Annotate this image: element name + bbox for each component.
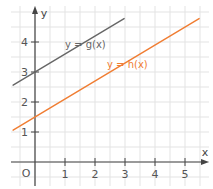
y-axis-arrow-icon <box>32 6 38 14</box>
x-axis-label: x <box>202 146 209 159</box>
label-g: y = g(x) <box>65 39 106 50</box>
coordinate-plane: 123451234Oxyy = g(x)y = h(x) <box>0 0 213 189</box>
line-g <box>13 19 124 86</box>
origin-label: O <box>22 167 31 180</box>
y-tick-label: 3 <box>21 66 28 79</box>
label-h: y = h(x) <box>107 59 148 70</box>
y-tick-label: 1 <box>21 126 28 139</box>
x-tick-label: 5 <box>182 168 189 181</box>
function-lines <box>13 19 199 131</box>
y-axis-label: y <box>41 7 48 20</box>
labels: 123451234Oxyy = g(x)y = h(x) <box>21 7 209 181</box>
line-h <box>13 19 199 131</box>
y-tick-label: 4 <box>21 36 28 49</box>
x-tick-label: 3 <box>122 168 129 181</box>
x-tick-label: 2 <box>92 168 99 181</box>
y-tick-label: 2 <box>21 96 28 109</box>
x-axis-arrow-icon <box>201 159 209 165</box>
x-tick-label: 4 <box>152 168 159 181</box>
x-tick-label: 1 <box>62 168 69 181</box>
grid <box>11 6 209 186</box>
